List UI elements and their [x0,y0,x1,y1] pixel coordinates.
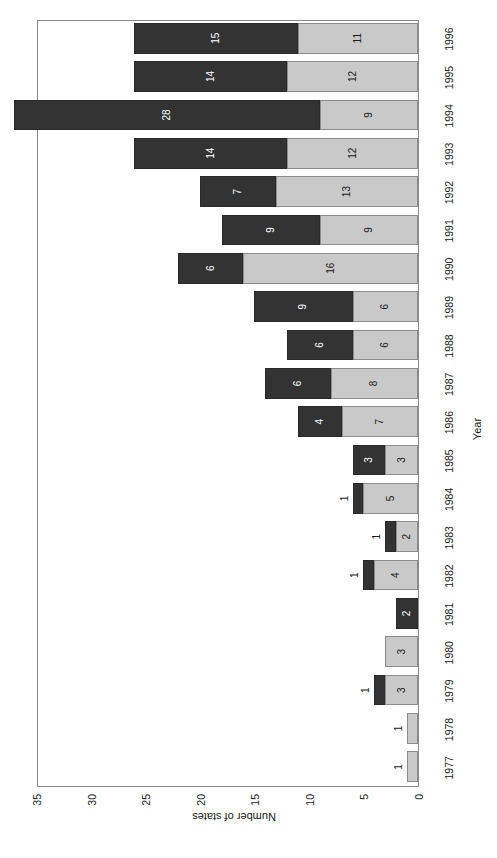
bar-value-label: 12 [348,71,358,82]
bar-value-label: 1 [350,572,360,578]
bar-segment[interactable]: 9 [254,291,352,322]
bar-segment[interactable]: 1 [374,675,385,706]
bar-value-label: 11 [353,33,363,43]
bar-segment[interactable]: 14 [134,138,287,169]
bar-group[interactable]: 66 [36,330,418,361]
y-axis-tick-label: 5 [358,794,370,858]
bar-segment[interactable]: 4 [374,560,418,591]
bar-value-label: 9 [364,112,374,118]
bar-segment[interactable]: 9 [222,215,320,246]
bar-group[interactable]: 86 [36,368,418,399]
bar-value-label: 7 [233,189,243,195]
bar-group[interactable]: 99 [36,215,418,246]
bar-segment[interactable]: 15 [134,23,298,54]
bar-group[interactable]: 166 [36,253,418,284]
bar-group[interactable]: 74 [36,406,418,437]
bar-segment[interactable]: 11 [298,23,418,54]
bar-segment[interactable]: 3 [385,675,418,706]
bar-value-label: 1 [340,496,350,502]
bar-segment[interactable]: 3 [385,445,418,476]
bar-segment[interactable]: 7 [342,406,418,437]
bar-group[interactable]: 2 [36,598,418,629]
bar-segment[interactable]: 13 [276,176,418,207]
bar-group[interactable]: 1 [36,752,418,783]
bar-value-label: 6 [315,342,325,348]
y-axis-tick-label: 30 [86,794,98,858]
bar-segment[interactable]: 8 [331,368,418,399]
bar-value-label: 4 [391,572,401,578]
bar-value-label: 9 [364,227,374,233]
bar-segment[interactable]: 3 [385,636,418,667]
bar-segment[interactable]: 3 [353,445,386,476]
x-axis-tick-label: 1987 [443,373,455,396]
bar-value-label: 3 [397,649,407,655]
bar-value-label: 6 [206,266,216,272]
bar-value-label: 16 [326,263,336,274]
bar-value-label: 5 [386,496,396,502]
bar-group[interactable]: 51 [36,483,418,514]
bar-segment[interactable]: 12 [287,61,418,92]
bar-segment[interactable]: 9 [320,100,418,131]
bar-group[interactable]: 1214 [36,61,418,92]
x-axis-tick-label: 1994 [443,104,455,127]
bar-segment[interactable]: 12 [287,138,418,169]
bar-segment[interactable]: 1 [407,713,418,744]
bar-value-label: 15 [211,33,221,44]
bar-segment[interactable]: 9 [320,215,418,246]
bar-group[interactable]: 31 [36,675,418,706]
bar-segment[interactable]: 4 [298,406,342,437]
bar-segment[interactable]: 16 [243,253,418,284]
bar-segment[interactable]: 7 [200,176,276,207]
bar-segment[interactable]: 14 [134,61,287,92]
bar-segment[interactable]: 6 [287,330,352,361]
rotated-figure-container: 1131324121513374866669166991371214928121… [0,0,497,858]
bar-segment[interactable]: 2 [396,598,418,629]
bar-value-label: 12 [348,148,358,159]
bar-value-label: 1 [361,687,371,693]
bar-segment[interactable]: 6 [353,291,418,322]
bar-value-label: 8 [369,381,379,387]
x-axis-tick-label: 1996 [443,28,455,51]
y-axis-tick-label: 0 [413,794,425,858]
bar-segment[interactable]: 6 [353,330,418,361]
x-axis-tick-label: 1991 [443,219,455,242]
bar-segment[interactable]: 6 [178,253,243,284]
bar-group[interactable]: 33 [36,445,418,476]
bar-segment[interactable]: 6 [265,368,330,399]
bar-value-label: 1 [372,534,382,540]
bar-segment[interactable]: 1 [363,560,374,591]
bar-segment[interactable]: 2 [396,521,418,552]
y-axis-tick-label: 20 [195,794,207,858]
bar-segment[interactable]: 28 [14,100,320,131]
bar-group[interactable]: 21 [36,521,418,552]
bar-value-label: 9 [266,227,276,233]
bar-group[interactable]: 1 [36,713,418,744]
bar-value-label: 2 [402,534,412,540]
bar-segment[interactable]: 1 [385,521,396,552]
bar-group[interactable]: 1214 [36,138,418,169]
x-axis-tick-label: 1993 [443,143,455,166]
y-axis-tick-label: 10 [304,794,316,858]
bar-group[interactable]: 69 [36,291,418,322]
bar-group[interactable]: 1115 [36,23,418,54]
bar-segment[interactable]: 1 [353,483,364,514]
bar-group[interactable]: 928 [36,100,418,131]
bar-group[interactable]: 137 [36,176,418,207]
bar-value-label: 6 [380,342,390,348]
y-axis-tick-label: 15 [249,794,261,858]
x-axis-tick-label: 1977 [443,756,455,779]
bar-value-label: 4 [315,419,325,425]
bar-value-label: 1 [394,726,404,732]
bar-segment[interactable]: 1 [407,752,418,783]
x-axis-tick-label: 1982 [443,564,455,587]
bar-group[interactable]: 3 [36,636,418,667]
bar-segment[interactable]: 5 [363,483,418,514]
y-axis-tick-label: 35 [31,794,43,858]
bar-group[interactable]: 41 [36,560,418,591]
bar-value-label: 6 [380,304,390,310]
x-axis-tick-label: 1981 [443,603,455,626]
x-axis-tick-label: 1990 [443,258,455,281]
x-axis-tick-label: 1992 [443,181,455,204]
y-axis-title: Number of states [43,811,425,823]
x-axis-tick-label: 1984 [443,488,455,511]
